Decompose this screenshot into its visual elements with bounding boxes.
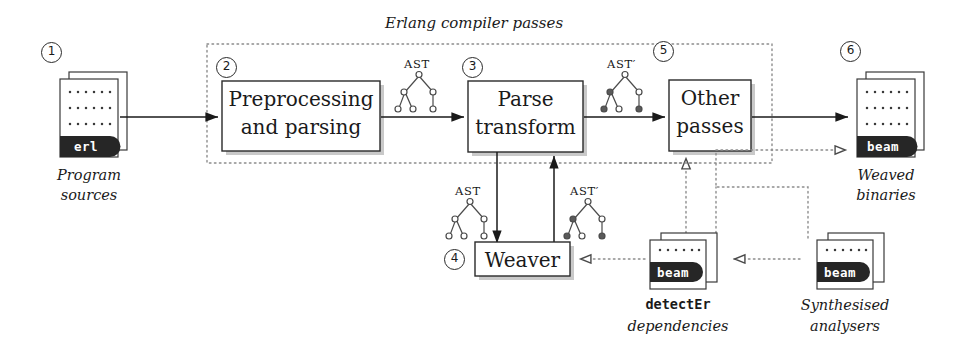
detecter-dependencies-caption-line1: detectEr — [618, 296, 738, 312]
program-sources-caption-line2: sources — [29, 186, 149, 205]
synthesised-analysers-icon — [817, 233, 884, 289]
step-marker-2: 2 — [216, 57, 237, 78]
weaved-binaries-caption-line2: binaries — [826, 186, 946, 205]
parse-transform-label-line1: Parse — [468, 87, 583, 111]
parse-transform-label-line2: transform — [468, 115, 583, 139]
detecter-dependencies-caption-line2: dependencies — [613, 317, 743, 336]
synthesised-analysers-caption-line1: Synthesised — [785, 296, 905, 315]
ast-prime-tree-glyph-top — [601, 72, 642, 113]
ast-tree-glyph-bottom — [446, 199, 487, 240]
preprocessing-label-line1: Preprocessing — [222, 87, 380, 111]
other-passes-label-line1: Other — [669, 86, 751, 110]
weaved-binaries-caption-line1: Weaved — [826, 166, 946, 185]
other-passes-label-line2: passes — [669, 114, 751, 138]
weaver-label: Weaver — [475, 248, 570, 272]
figure-canvas: Erlang compiler passes 1 2 3 4 5 6 erl P… — [0, 0, 967, 353]
step-marker-3: 3 — [462, 57, 483, 78]
ast-tree-glyph-top — [395, 72, 436, 113]
step-marker-5: 5 — [653, 41, 674, 62]
step-marker-4: 4 — [444, 249, 465, 270]
ast-prime-tree-glyph-bottom — [564, 199, 605, 240]
detecter-dependencies-icon — [650, 233, 717, 289]
synthesised-analysers-caption-line2: analysers — [785, 317, 905, 336]
program-sources-caption-line1: Program — [29, 166, 149, 185]
erl-file-tag: erl — [63, 139, 109, 154]
detecter-dependencies-tag: beam — [652, 265, 694, 280]
ast-prime-label-bottom: AST′ — [570, 184, 599, 198]
synthesised-analysers-tag: beam — [819, 265, 861, 280]
weaved-binaries-tag: beam — [860, 139, 906, 154]
preprocessing-label-line2: and parsing — [222, 115, 380, 139]
ast-label-top: AST — [404, 57, 430, 71]
ast-prime-label-top: AST′ — [607, 57, 636, 71]
group-title: Erlang compiler passes — [385, 14, 563, 32]
ast-label-bottom: AST — [455, 184, 481, 198]
step-marker-1: 1 — [41, 42, 62, 63]
step-marker-6: 6 — [840, 41, 861, 62]
